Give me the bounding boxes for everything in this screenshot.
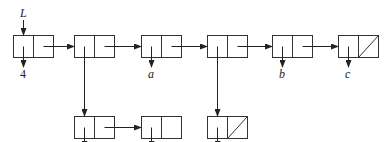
label-4: 4 [20, 67, 26, 81]
label-c: c [345, 67, 351, 81]
cell-n6-nil [339, 36, 379, 58]
cell-sub2-nil [208, 117, 248, 139]
cell-sub1-b [142, 117, 182, 139]
label-L: L [19, 6, 27, 20]
label-b: b [279, 67, 285, 81]
label-a: a [148, 67, 154, 81]
linked-list-diagram: L 4 a b c 3 [0, 0, 387, 142]
